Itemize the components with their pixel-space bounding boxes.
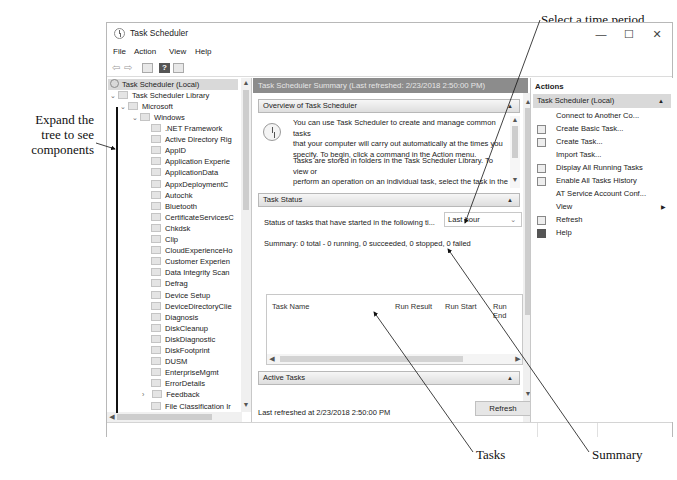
tree-node-task-folder[interactable]: › Feedback <box>142 389 199 400</box>
collapse-icon[interactable]: ▲ <box>658 94 664 108</box>
tree-label: ErrorDetails <box>165 379 205 388</box>
tree-label: Feedback <box>166 390 199 399</box>
scroll-up-icon[interactable]: ▲ <box>241 79 251 86</box>
tree-node-task-folder[interactable]: AppxDeploymentC <box>151 179 228 190</box>
collapse-icon[interactable]: ▲ <box>507 100 513 112</box>
column-run-end[interactable]: Run End <box>493 302 522 320</box>
tree-node-task-folder[interactable]: Diagnosis <box>151 312 198 323</box>
scroll-down-icon[interactable]: ▼ <box>241 401 251 408</box>
minimize-button[interactable]: — <box>587 26 615 42</box>
tree-vertical-scrollbar[interactable]: ▲ ▼ <box>241 78 251 412</box>
tree-node-task-folder[interactable]: Application Experie <box>151 156 230 167</box>
tree-node-task-folder[interactable]: DiskFootprint <box>151 345 210 356</box>
tree-node-task-folder[interactable]: Customer Experien <box>151 256 230 267</box>
tree-label: Autochk <box>165 191 192 200</box>
close-button[interactable]: ✕ <box>643 26 671 42</box>
menu-view[interactable]: View <box>169 47 186 56</box>
scroll-thumb[interactable] <box>117 414 212 420</box>
column-run-start[interactable]: Run Start <box>445 302 477 311</box>
tree-node-task-folder[interactable]: CloudExperienceHo <box>151 245 233 256</box>
tree-node-task-folder[interactable]: DiskCleanup <box>151 323 208 334</box>
callout-tasks: Tasks <box>476 447 505 462</box>
tree-node-task-folder[interactable]: .NET Framework <box>151 123 222 134</box>
action-item[interactable]: Help <box>556 228 572 237</box>
column-run-result[interactable]: Run Result <box>395 302 432 311</box>
text-line: You can use Task Scheduler to create and… <box>293 118 508 139</box>
scroll-thumb[interactable] <box>243 90 249 210</box>
action-item[interactable]: View <box>556 202 572 211</box>
back-arrow-icon[interactable]: ⇦ <box>112 63 123 73</box>
tree-node-task-folder[interactable]: Data Integrity Scan <box>151 267 230 278</box>
action-item[interactable]: Display All Running Tasks <box>556 163 643 172</box>
help-icon <box>537 229 546 238</box>
overview-section-header[interactable]: Overview of Task Scheduler ▲ <box>258 99 520 113</box>
action-item[interactable]: Enable All Tasks History <box>556 176 637 185</box>
scroll-right-icon[interactable]: ▶ <box>513 355 523 363</box>
action-item[interactable]: AT Service Account Conf... <box>556 189 646 198</box>
tree-node-task-folder[interactable]: File Classification Ir <box>151 401 231 412</box>
overview-scrollbar[interactable]: ▲ ▼ <box>510 116 520 188</box>
action-item[interactable]: Create Task... <box>556 137 603 146</box>
collapse-icon[interactable]: ▲ <box>507 194 513 206</box>
menu-action[interactable]: Action <box>134 47 156 56</box>
scroll-thumb[interactable] <box>280 356 463 362</box>
help-icon[interactable]: ? <box>159 63 170 73</box>
tree-node-task-folder[interactable]: Bluetooth <box>151 201 197 212</box>
active-tasks-section-header[interactable]: Active Tasks ▲ <box>258 371 520 385</box>
scroll-down-icon[interactable]: ▼ <box>510 176 520 183</box>
overview-paragraph-2: Tasks are stored in folders in the Task … <box>293 156 508 188</box>
actions-group-header[interactable]: Task Scheduler (Local) ▲ <box>533 94 671 108</box>
task-status-section-header[interactable]: Task Status ▲ <box>258 193 520 207</box>
action-item[interactable]: Refresh <box>556 215 583 224</box>
tree-label: Chkdsk <box>165 224 190 233</box>
tree-node-task-folder[interactable]: DeviceDirectoryClie <box>151 301 232 312</box>
scroll-left-icon[interactable]: ◀ <box>267 355 277 363</box>
scroll-left-icon[interactable]: ◀ <box>107 413 117 421</box>
chevron-down-icon[interactable]: ⌄ <box>132 112 140 123</box>
tree-node-library[interactable]: ⌄Task Scheduler Library <box>110 90 209 101</box>
show-hide-action-pane-icon[interactable] <box>173 63 184 73</box>
tree-node-task-folder[interactable]: DUSM <box>151 356 187 367</box>
refresh-icon <box>537 216 546 225</box>
scroll-up-icon[interactable]: ▲ <box>510 116 520 123</box>
time-period-dropdown[interactable]: Last hour ⌄ <box>444 212 522 227</box>
tree-node-task-folder[interactable]: ApplicationData <box>151 167 218 178</box>
forward-arrow-icon[interactable]: ⇨ <box>124 63 135 73</box>
tree-node-task-folder[interactable]: ErrorDetails <box>151 378 205 389</box>
action-item[interactable]: Connect to Another Co... <box>556 111 639 120</box>
folder-icon <box>140 113 150 121</box>
chevron-right-icon[interactable]: › <box>142 389 150 400</box>
action-item[interactable]: Import Task... <box>556 150 601 159</box>
folder-icon <box>151 135 161 143</box>
tree-node-windows[interactable]: ⌄Windows <box>132 112 185 123</box>
actions-title: Actions <box>535 82 564 91</box>
show-hide-console-tree-icon[interactable] <box>142 63 153 73</box>
menu-help[interactable]: Help <box>195 47 211 56</box>
tree-node-task-folder[interactable]: DiskDiagnostic <box>151 334 215 345</box>
tree-node-task-folder[interactable]: Active Directory Rig <box>151 134 232 145</box>
chevron-down-icon[interactable]: ⌄ <box>120 101 128 112</box>
library-icon <box>118 91 128 99</box>
tree-node-task-folder[interactable]: Device Setup <box>151 290 210 301</box>
scroll-thumb[interactable] <box>512 126 518 158</box>
tree-node-task-folder[interactable]: AppID <box>151 145 186 156</box>
action-item[interactable]: Create Basic Task... <box>556 124 623 133</box>
refresh-button[interactable]: Refresh <box>475 401 531 416</box>
collapse-icon[interactable]: ▲ <box>507 372 513 384</box>
tree-node-task-folder[interactable]: Defrag <box>151 278 188 289</box>
tree-node-task-folder[interactable]: Clip <box>151 234 178 245</box>
table-horizontal-scrollbar[interactable]: ◀ ▶ <box>267 354 522 364</box>
tree-node-task-folder[interactable]: CertificateServicesC <box>151 212 234 223</box>
tree-root-local[interactable]: Task Scheduler (Local) <box>108 79 238 90</box>
column-task-name[interactable]: Task Name <box>272 302 310 311</box>
maximize-button[interactable]: ☐ <box>615 26 643 42</box>
tree-node-task-folder[interactable]: Chkdsk <box>151 223 190 234</box>
menu-file[interactable]: File <box>113 47 126 56</box>
callout-summary: Summary <box>592 447 643 462</box>
tree-node-microsoft[interactable]: ⌄Microsoft <box>120 101 173 112</box>
tree-horizontal-scrollbar[interactable]: ◀ <box>107 412 242 422</box>
chevron-down-icon[interactable]: ⌄ <box>110 90 118 101</box>
folder-icon <box>151 357 161 365</box>
tree-node-task-folder[interactable]: Autochk <box>151 190 192 201</box>
tree-node-task-folder[interactable]: EnterpriseMgmt <box>151 367 219 378</box>
